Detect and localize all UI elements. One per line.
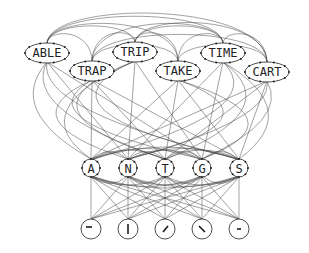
letter-node-T: T	[155, 158, 175, 178]
letter-label: A	[87, 162, 95, 176]
feature-node-backward-diagonal	[192, 219, 212, 239]
word-level-nodes: ABLETRAPTRIPTAKETIMECART	[24, 41, 290, 82]
word-label: ABLE	[33, 46, 62, 60]
feature-node-short-bar	[229, 219, 249, 239]
letter-node-G: G	[192, 158, 212, 178]
letter-label: T	[161, 162, 168, 176]
letter-label: S	[235, 162, 242, 176]
word-node-take: TAKE	[155, 60, 201, 81]
feature-node-forward-diagonal	[155, 219, 175, 239]
letter-node-S: S	[229, 158, 249, 178]
word-label: TRIP	[121, 45, 150, 59]
connection-lines	[33, 13, 271, 219]
letter-level-nodes: ANTGS	[81, 158, 249, 178]
word-node-able: ABLE	[24, 42, 70, 63]
word-label: TAKE	[164, 64, 193, 78]
word-node-trap: TRAP	[69, 60, 115, 81]
interactive-activation-network: ABLETRAPTRIPTAKETIMECART ANTGS	[0, 0, 309, 253]
letter-label: G	[198, 162, 205, 176]
feature-node-vertical-bar	[118, 219, 138, 239]
word-label: TRAP	[78, 64, 107, 78]
letter-node-N: N	[118, 158, 138, 178]
word-node-cart: CART	[244, 61, 290, 82]
word-label: TIME	[209, 46, 238, 60]
letter-node-A: A	[81, 158, 101, 178]
feature-level-nodes	[81, 219, 249, 239]
word-node-trip: TRIP	[112, 41, 158, 62]
letter-label: N	[124, 162, 131, 176]
feature-node-horizontal-bar	[81, 219, 101, 239]
word-label: CART	[253, 65, 282, 79]
